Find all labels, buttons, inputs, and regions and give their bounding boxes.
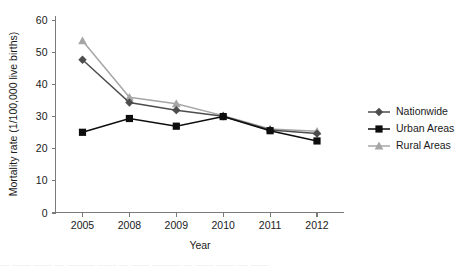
y-tick-label: 30 [36, 110, 48, 122]
legend-item-urban-areas[interactable]: Urban Areas [368, 122, 454, 134]
y-tick-label: 10 [36, 174, 48, 186]
legend-label: Rural Areas [396, 139, 451, 151]
data-point-marker-square [220, 113, 227, 120]
series-nationwide [78, 56, 321, 138]
page-bottom-artifact: — —— —— — ——— —— — —— ——— — —— —— — —— [0, 260, 466, 268]
legend-label: Nationwide [396, 105, 448, 117]
y-tick-label: 50 [36, 46, 48, 58]
data-series-group [78, 36, 321, 144]
x-tick-label: 2009 [165, 219, 189, 231]
axes [56, 16, 345, 213]
data-point-marker-square [79, 129, 86, 136]
x-tick-label: 2012 [305, 219, 329, 231]
data-point-marker-square [126, 115, 133, 122]
y-tick-label: 60 [36, 14, 48, 26]
series-rural-areas [78, 36, 321, 134]
x-axis-title: Year [189, 239, 211, 251]
data-point-marker-diamond [172, 106, 180, 114]
series-line [83, 117, 318, 141]
x-tick-label: 2011 [259, 219, 282, 231]
data-point-marker-square [375, 125, 382, 132]
mortality-rate-line-chart: 0102030405060 200520082009201020112012 M… [0, 0, 466, 268]
x-tick-label: 2005 [71, 219, 95, 231]
legend-item-rural-areas[interactable]: Rural Areas [368, 139, 451, 151]
x-tick-label: 2008 [118, 219, 142, 231]
y-axis-ticks: 0102030405060 [36, 14, 56, 219]
y-axis-title: Mortality rate (1/100,000 live births) [7, 32, 19, 197]
data-point-marker-square [267, 127, 274, 134]
legend-item-nationwide[interactable]: Nationwide [368, 105, 448, 117]
y-tick-label: 0 [42, 207, 48, 219]
legend-label: Urban Areas [396, 122, 454, 134]
x-axis-ticks: 200520082009201020112012 [71, 213, 329, 231]
series-urban-areas [79, 113, 321, 145]
data-point-marker-square [313, 137, 320, 144]
y-tick-label: 40 [36, 78, 48, 90]
chart-canvas: 0102030405060 200520082009201020112012 M… [0, 0, 466, 268]
y-tick-label: 20 [36, 142, 48, 154]
data-point-marker-diamond [375, 108, 383, 116]
chart-legend: NationwideUrban AreasRural Areas [368, 105, 454, 151]
series-line [83, 41, 318, 131]
x-tick-label: 2010 [212, 219, 236, 231]
data-point-marker-square [173, 123, 180, 130]
data-point-marker-triangle [78, 36, 87, 44]
